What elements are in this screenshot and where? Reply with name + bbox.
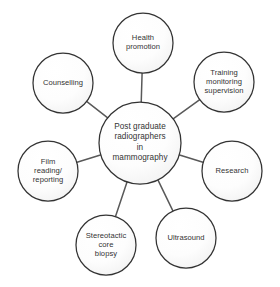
connector-line-stereotactic-core-biopsy xyxy=(115,181,127,217)
connector-line-film-reading-reporting xyxy=(76,155,101,163)
node-label-health-promotion: Health promotion xyxy=(115,34,171,52)
node-label-film-reading-reporting: Film reading/ reporting xyxy=(20,158,76,185)
node-label-stereotactic-core-biopsy: Stereotactic core biopsy xyxy=(78,232,134,259)
connector-line-counselling xyxy=(86,101,108,118)
connector-line-research xyxy=(179,155,204,163)
connector-line-ultrasound xyxy=(158,179,173,211)
connector-line-training-monitoring-supervision xyxy=(173,99,200,119)
diagram-canvas: Health promotionTraining monitoring supe… xyxy=(0,0,280,287)
node-label-ultrasound: Ultrasound xyxy=(158,234,214,243)
node-label-counselling: Counselling xyxy=(35,79,91,88)
connector-line-health-promotion xyxy=(141,72,142,102)
node-label-research: Research xyxy=(204,167,260,176)
node-label-training-monitoring-supervision: Training monitoring supervision xyxy=(196,69,252,96)
center-node-label: Post graduate radiographers in mammograp… xyxy=(101,122,179,163)
